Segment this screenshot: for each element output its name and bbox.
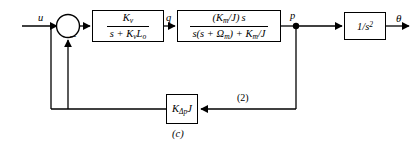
fraction-gain-q: Kv s + KvLo xyxy=(107,12,149,40)
integrator-label: 1/s2 xyxy=(357,20,373,32)
block-transfer-function-gain-q[interactable]: Kv s + KvLo xyxy=(92,10,164,42)
label-input-u: u xyxy=(38,12,43,23)
fraction-denominator: s(s + Ωm) + Km/J xyxy=(190,26,269,41)
block-feedback-gain[interactable]: KΔpJ xyxy=(166,94,198,124)
label-node-p: p xyxy=(290,10,295,21)
fraction-denominator: s + KvLo xyxy=(107,26,149,41)
label-node-q: q xyxy=(166,12,171,23)
figure-caption: (c) xyxy=(172,128,184,139)
block-integrator[interactable]: 1/s2 xyxy=(344,12,386,40)
feedback-gain-label: KΔpJ xyxy=(172,103,192,116)
label-output-theta: θ xyxy=(396,12,401,24)
label-summing-negative-sign: − xyxy=(69,29,76,45)
fraction-numerator: Kv xyxy=(107,12,149,26)
block-diagram: Kv s + KvLo (Km/J) s s(s + Ωm) + Km/J 1/… xyxy=(0,0,413,149)
label-branch-marker: (2) xyxy=(237,92,249,103)
block-transfer-function-plant-p[interactable]: (Km/J) s s(s + Ωm) + Km/J xyxy=(177,10,281,42)
fraction-plant-p: (Km/J) s s(s + Ωm) + Km/J xyxy=(190,12,269,40)
fraction-numerator: (Km/J) s xyxy=(190,12,269,26)
